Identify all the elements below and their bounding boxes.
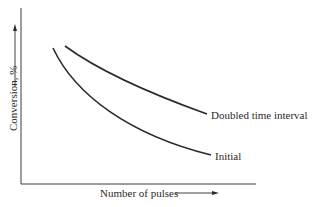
y-axis-label: Conversion, % (7, 66, 19, 131)
chart: Conversion, % Number of pulses Doubled t… (0, 0, 312, 207)
series-doubled-label: Doubled time interval (211, 109, 308, 121)
series-initial-label: Initial (215, 150, 241, 162)
arrow-right-icon (212, 191, 219, 195)
x-axis-label: Number of pulses (100, 187, 178, 199)
series-initial-curve (53, 48, 211, 155)
series-doubled-time-interval-curve (65, 46, 207, 114)
arrow-up-icon (13, 24, 17, 31)
